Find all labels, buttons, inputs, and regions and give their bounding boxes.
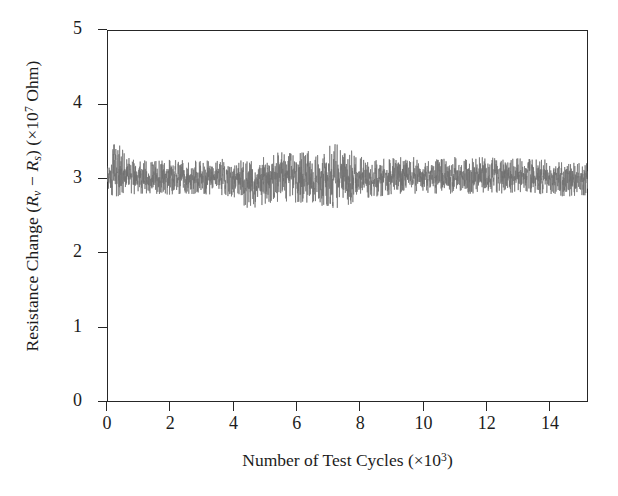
y-tick-label: 4 — [12, 93, 82, 111]
x-axis-title: Number of Test Cycles (×103) — [107, 450, 588, 471]
x-tick-mark — [106, 402, 107, 411]
y-tick-mark — [98, 252, 107, 253]
x-tick-mark — [423, 402, 424, 411]
x-tick-mark — [359, 402, 360, 411]
x-tick-mark — [233, 402, 234, 411]
y-axis-var-rv: R — [22, 196, 42, 207]
x-tick-label: 2 — [140, 414, 200, 432]
x-tick-label: 4 — [204, 414, 264, 432]
y-tick-mark — [98, 178, 107, 179]
y-tick-label: 1 — [12, 317, 82, 335]
y-tick-mark — [98, 327, 107, 328]
x-tick-label: 0 — [77, 414, 137, 432]
series-resistance-change-line — [107, 144, 588, 208]
y-tick-label: 3 — [12, 168, 82, 186]
y-tick-mark — [98, 104, 107, 105]
data-trace-layer — [107, 30, 588, 402]
x-tick-mark — [549, 402, 550, 411]
x-tick-label: 6 — [267, 414, 327, 432]
y-tick-mark — [98, 29, 107, 30]
x-tick-mark — [486, 402, 487, 411]
y-tick-label: 0 — [12, 391, 82, 409]
x-tick-label: 10 — [393, 414, 453, 432]
x-tick-label: 14 — [520, 414, 580, 432]
figure-container: Resistance Change (Rv − Rs) (×107 Ohm) N… — [0, 0, 618, 496]
y-axis-sub-v: v — [29, 191, 43, 196]
y-tick-label: 5 — [12, 19, 82, 37]
x-tick-mark — [169, 402, 170, 411]
y-tick-label: 2 — [12, 242, 82, 260]
x-tick-label: 8 — [330, 414, 390, 432]
y-axis-title: Resistance Change (Rv − Rs) (×107 Ohm) — [16, 0, 50, 416]
x-tick-mark — [296, 402, 297, 411]
y-axis-sub-s: s — [29, 156, 43, 161]
x-tick-label: 12 — [457, 414, 517, 432]
